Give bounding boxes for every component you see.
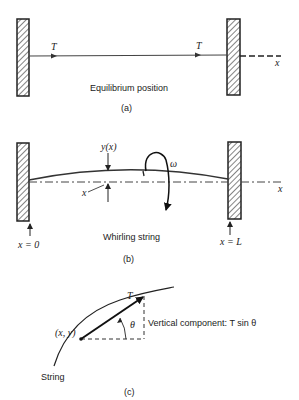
panel-a: T T x Equilibrium position (a) — [17, 19, 281, 113]
position-pointer — [88, 185, 104, 192]
deflection-label: y(x) — [100, 141, 117, 153]
right-wall — [227, 19, 240, 95]
rotation-arrow-icon — [145, 153, 169, 210]
tension-label-right: T — [196, 40, 203, 51]
angle-label: θ — [130, 319, 135, 330]
panel-caption: (b) — [123, 254, 134, 264]
deflected-string — [29, 170, 228, 180]
angular-velocity-label: ω — [170, 158, 177, 169]
panel-title: Whirling string — [103, 232, 160, 242]
panel-c: T (x, y) θ Vertical component: T sin θ S… — [41, 287, 256, 397]
panel-caption: (a) — [121, 103, 132, 113]
tension-label-left: T — [51, 41, 58, 52]
string-marker — [143, 171, 144, 176]
tension-arrow-right-icon — [195, 53, 201, 58]
tension-arrow-left-icon — [51, 54, 57, 59]
left-wall — [17, 143, 29, 221]
whirling-string-figure: T T x Equilibrium position (a) y(x) x ω … — [0, 0, 299, 400]
angle-arc-arrow-icon — [117, 318, 122, 323]
panel-title: Equilibrium position — [90, 83, 168, 93]
panel-caption: (c) — [124, 387, 135, 397]
axis-label: x — [274, 57, 280, 68]
vertical-component-label: Vertical component: T sin θ — [148, 318, 256, 328]
left-wall — [17, 19, 29, 96]
point-label: (x, y) — [55, 327, 76, 339]
position-label: x — [81, 187, 87, 198]
right-end-label: x = L — [219, 236, 242, 247]
axis-label: x — [277, 183, 283, 194]
point-marker — [79, 337, 83, 341]
string-label: String — [41, 372, 65, 382]
right-wall — [228, 142, 241, 219]
panel-b: y(x) x ω x x = 0 x = L Whirling string (… — [17, 141, 283, 264]
left-end-label: x = 0 — [17, 239, 39, 250]
